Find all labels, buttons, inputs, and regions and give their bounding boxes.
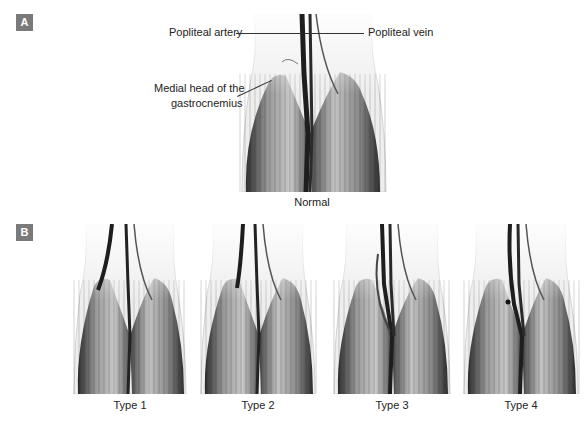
- leader-line-vein: [304, 33, 364, 34]
- label-medial-head-line1: Medial head of the: [154, 82, 245, 94]
- caption-type-1: Type 1: [90, 399, 170, 411]
- caption-type-4: Type 4: [481, 399, 561, 411]
- caption-type-3: Type 3: [352, 399, 432, 411]
- label-popliteal-vein: Popliteal vein: [368, 26, 433, 38]
- label-popliteal-artery: Popliteal artery: [169, 26, 242, 38]
- normal-leg-illustration: [238, 14, 388, 192]
- leader-line-artery: [236, 33, 302, 34]
- type-1-illustration: [72, 224, 188, 394]
- label-medial-head-line2: gastrocnemius: [171, 97, 243, 109]
- panel-b-badge: B: [16, 224, 33, 241]
- caption-normal: Normal: [262, 196, 362, 208]
- type-3-illustration: [332, 224, 452, 394]
- caption-type-2: Type 2: [218, 399, 298, 411]
- panel-a-badge: A: [16, 14, 33, 31]
- type-4-illustration: [462, 224, 580, 394]
- type-2-illustration: [199, 224, 317, 394]
